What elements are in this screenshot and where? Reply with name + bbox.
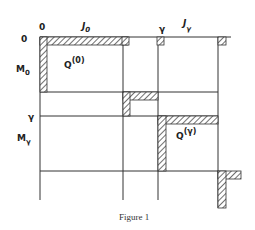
block-label-Qgamma: Q(γ) [176,127,196,141]
hatch-qg-left [158,116,166,171]
hatch-left-col0 [40,37,47,92]
figure-caption: Figure 1 [119,212,149,222]
row-label-Mgamma: Mγ [17,133,31,146]
block-label-Q0: Q(0) [64,56,85,70]
row-label-gamma: γ [28,112,34,122]
block-matrix-diagram: 0 J0 γ Jγ 0 M0 γ Mγ Q(0) Q(γ) Figure 1 [0,0,255,230]
hatch-square-gamma [157,37,164,45]
row-label-origin: 0 [21,34,27,44]
col-label-origin: 0 [39,22,45,32]
hatch-qg-top [158,116,218,124]
col-label-J0: J0 [80,21,90,34]
hatch-square-end [218,37,226,45]
col-label-Jgamma: Jγ [181,18,192,33]
hatch-square-a [122,37,129,45]
col-label-gamma: γ [159,24,165,34]
row-label-M0: M0 [16,64,30,77]
hatch-mid-left [123,92,130,116]
hatch-top-row0 [40,37,128,45]
hatch-br-left [218,171,226,208]
